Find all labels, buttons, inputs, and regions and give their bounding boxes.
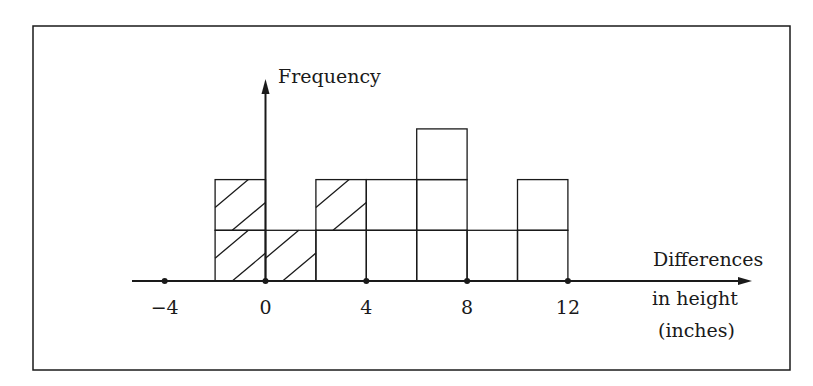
- x-axis-label-line1: Differences: [653, 248, 763, 270]
- x-axis-arrow-icon: [738, 277, 752, 285]
- histogram-bar: [316, 180, 366, 281]
- histogram-bar: [266, 230, 316, 281]
- x-tick-dot: [162, 278, 168, 284]
- hatch-line: [266, 230, 299, 258]
- x-tick-label: 0: [259, 296, 271, 318]
- x-axis-label-line3: (inches): [658, 319, 735, 341]
- histogram-cell: [417, 129, 467, 180]
- hatch-line: [283, 253, 316, 281]
- x-tick-dot: [565, 278, 571, 284]
- histogram-bars: [215, 129, 568, 281]
- x-tick-dot: [263, 278, 269, 284]
- histogram-cell: [316, 230, 366, 281]
- x-tick-label: 4: [360, 296, 372, 318]
- x-axis-label-line2: in height: [652, 287, 738, 309]
- histogram-cell: [417, 230, 467, 281]
- hatch-line: [215, 180, 248, 208]
- hatch-line: [232, 202, 265, 230]
- hatch-line: [215, 230, 248, 258]
- histogram-bar: [366, 180, 416, 281]
- histogram-bar: [518, 180, 568, 281]
- x-tick-dot: [464, 278, 470, 284]
- histogram-cell: [417, 180, 467, 231]
- y-axis-label: Frequency: [278, 65, 381, 87]
- hatch-line: [232, 253, 265, 281]
- x-ticks: −404812: [151, 278, 580, 318]
- histogram-cell: [518, 180, 568, 231]
- histogram-chart: −404812 Frequency Differences in height …: [0, 0, 813, 386]
- histogram-cell: [518, 230, 568, 281]
- x-tick-label: −4: [151, 296, 179, 318]
- hatch-line: [333, 202, 366, 230]
- y-axis-arrow-icon: [262, 79, 270, 94]
- x-tick-label: 8: [461, 296, 473, 318]
- hatch-line: [316, 180, 349, 208]
- x-tick-label: 12: [556, 296, 580, 318]
- histogram-cell: [366, 230, 416, 281]
- histogram-bar: [215, 180, 265, 281]
- histogram-bar: [417, 129, 467, 281]
- histogram-cell: [467, 230, 517, 281]
- histogram-cell: [366, 180, 416, 231]
- x-tick-dot: [363, 278, 369, 284]
- histogram-bar: [467, 230, 517, 281]
